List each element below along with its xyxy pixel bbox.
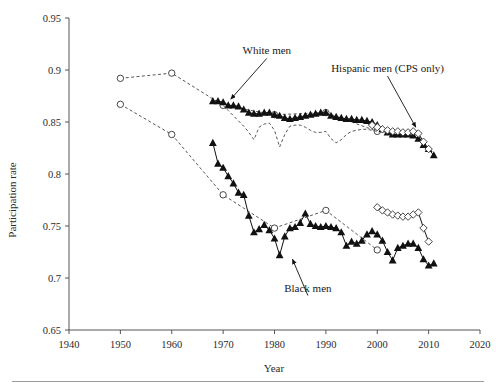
data-point-marker (169, 131, 175, 137)
data-point-marker (374, 247, 380, 253)
x-axis-label: Year (264, 362, 285, 374)
x-tick-label: 1950 (110, 339, 131, 350)
annotation-label-0: White men (243, 44, 292, 56)
y-tick-label: 0.9 (48, 65, 61, 76)
x-tick-label: 2000 (367, 339, 388, 350)
figure-container: 0.650.70.750.80.850.90.95194019501960197… (0, 0, 496, 385)
annotation-label-1: Hispanic men (CPS only) (331, 62, 444, 75)
data-point-marker (220, 192, 226, 198)
data-point-marker (117, 101, 123, 107)
x-tick-label: 1940 (59, 339, 80, 350)
y-tick-label: 0.8 (48, 169, 61, 180)
data-point-marker (117, 75, 123, 81)
chart-background (0, 0, 496, 385)
y-tick-label: 0.75 (43, 221, 61, 232)
y-tick-label: 0.7 (48, 273, 61, 284)
data-point-marker (323, 207, 329, 213)
participation-rate-chart: 0.650.70.750.80.850.90.95194019501960197… (0, 0, 496, 385)
y-tick-label: 0.65 (43, 325, 61, 336)
x-tick-label: 1970 (213, 339, 234, 350)
data-point-marker (271, 225, 277, 231)
annotation-label-2: Black men (284, 282, 332, 294)
y-tick-label: 0.95 (43, 13, 61, 24)
x-tick-label: 1990 (315, 339, 336, 350)
x-tick-label: 2020 (470, 339, 491, 350)
y-axis-label: Participation rate (6, 162, 18, 238)
x-tick-label: 2010 (418, 339, 439, 350)
data-point-marker (169, 70, 175, 76)
y-tick-label: 0.85 (43, 117, 61, 128)
x-tick-label: 1980 (264, 339, 285, 350)
x-tick-label: 1960 (161, 339, 182, 350)
